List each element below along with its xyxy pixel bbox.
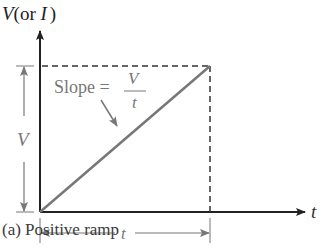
height-dimension-label: V — [17, 129, 31, 150]
ramp-diagram: V(or I) t Slope = V t V t — [0, 0, 329, 248]
x-axis-label: t — [311, 201, 317, 222]
slope-denominator: t — [132, 93, 138, 112]
slope-pointer-arrow — [101, 100, 117, 126]
figure-caption: (a) Positive ramp — [2, 220, 119, 240]
slope-numerator: V — [128, 69, 141, 88]
y-axis-label: V(or I) — [2, 3, 56, 25]
slope-label: Slope = — [54, 77, 110, 97]
width-dimension-label: t — [121, 224, 127, 243]
